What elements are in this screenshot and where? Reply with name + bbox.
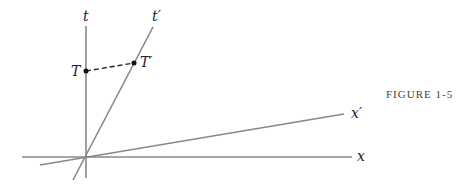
label-T: T: [71, 63, 82, 79]
label-x: x: [357, 148, 365, 164]
event-T: [84, 69, 89, 74]
event-T-prime: [132, 61, 137, 66]
label-T-prime: T′: [140, 54, 153, 70]
figure-caption: FIGURE 1-5: [386, 88, 453, 100]
label-t: t: [83, 8, 89, 24]
T-to-T-prime-dashed: [86, 63, 134, 71]
label-t-prime: t′: [152, 8, 162, 24]
label-x-prime: x′: [351, 105, 363, 121]
